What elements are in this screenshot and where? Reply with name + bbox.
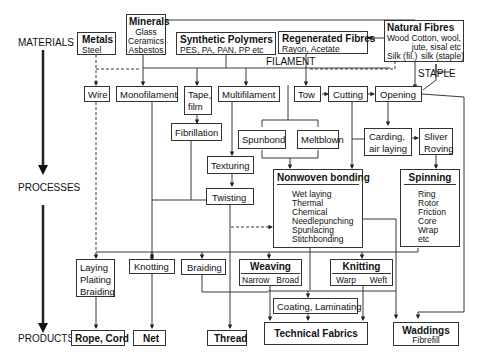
textile-process-diagram: MATERIALS PROCESSES PRODUCTS Metals Stee… [0, 0, 480, 360]
laying-label: Laying [80, 262, 108, 273]
knotting-label: Knotting [134, 261, 169, 272]
multifilament-box: Multifilament [218, 86, 280, 102]
spinning-title: Spinning [401, 172, 459, 183]
meltblown-label: Meltblown [301, 134, 344, 145]
synthetic-title: Synthetic Polymers [180, 34, 273, 45]
synthetic-item: PES, PA, PAN, PP etc [180, 45, 264, 56]
filament-label: FILAMENT [266, 56, 315, 67]
weaving-narrow: Narrow [242, 275, 269, 286]
carding-box: Carding, air laying [364, 128, 412, 156]
thread-label: Thread [214, 333, 247, 344]
weaving-box: Weaving Narrow Broad [239, 259, 302, 286]
minerals-box: Minerals Glass Ceramics Asbestos [126, 14, 166, 55]
nonwoven-title: Nonwoven bonding [277, 172, 370, 183]
braiding-label: Braiding [80, 286, 115, 297]
nonwoven-item: Stitchbonding [292, 234, 344, 245]
carding-label: Carding, [369, 131, 405, 142]
metals-box: Metals Steel [77, 32, 116, 55]
sliver-label: Sliver [424, 131, 448, 142]
braiding-box: Braiding [181, 259, 226, 275]
plaiting-label: Plaiting [80, 274, 111, 285]
metals-title: Metals [82, 34, 113, 45]
spunbond-label: Spunbond [242, 134, 285, 145]
thread-box: Thread [207, 330, 247, 346]
knitting-divider [332, 273, 391, 274]
natural-item-silk-staple: silk (staple) [421, 51, 464, 62]
spinning-divider [404, 184, 456, 185]
tow-label: Tow [298, 89, 315, 100]
weaving-divider [241, 273, 300, 274]
knitting-title: Knitting [331, 261, 392, 272]
weaving-broad: Broad [276, 275, 299, 286]
spunbond-box: Spunbond [238, 130, 286, 149]
air-laying-label: air laying [369, 143, 407, 154]
natural-title: Natural Fibres [387, 22, 454, 33]
braiding-label: Braiding [187, 262, 222, 273]
spinning-item: etc [418, 234, 429, 245]
rope-cord-box: Rope, Cord [71, 330, 125, 346]
nonwoven-divider [277, 184, 359, 185]
twisting-box: Twisting [206, 188, 254, 205]
net-label: Net [143, 333, 159, 344]
monofilament-box: Monofilament [116, 86, 178, 102]
laying-plaiting-braiding-box: Laying Plaiting Braiding [76, 259, 115, 297]
weaving-title: Weaving [240, 261, 301, 272]
natural-fibres-box: Natural Fibres Wood Cotton, wool, jute, … [384, 20, 464, 62]
fibrillation-box: Fibrillation [171, 123, 222, 141]
monofilament-label: Monofilament [120, 89, 177, 100]
wire-label: Wire [88, 89, 108, 100]
roving-label: Roving [424, 143, 454, 154]
texturing-box: Texturing [207, 156, 254, 174]
cutting-box: Cutting [328, 86, 368, 102]
knotting-box: Knotting [129, 259, 175, 274]
technical-fabrics-box: Technical Fabrics [264, 322, 368, 345]
natural-item-wood: Wood [387, 33, 409, 44]
cutting-label: Cutting [333, 89, 363, 100]
fibrillation-label: Fibrillation [175, 127, 218, 138]
staple-label: STAPLE [418, 68, 456, 79]
rope-cord-label: Rope, Cord [75, 333, 129, 344]
regenerated-item: Rayon, Acetate [282, 44, 340, 55]
stage-label-products: PRODUCTS [18, 333, 74, 344]
minerals-item-asbestos: Asbestos [127, 45, 165, 56]
opening-label: Opening [380, 89, 416, 100]
coating-label: Coating, Laminating [277, 301, 362, 312]
sliver-roving-box: Sliver Roving [419, 128, 453, 155]
regenerated-fibres-box: Regenerated Fibres Rayon, Acetate [278, 31, 368, 54]
knitting-weft: Weft [370, 275, 387, 286]
fibrefill-label: Fibrefill [394, 335, 458, 346]
texturing-label: Texturing [211, 160, 250, 171]
nonwoven-bonding-box: Nonwoven bonding Wet laying Thermal Chem… [273, 169, 363, 248]
knitting-warp: Warp [336, 275, 356, 286]
meltblown-box: Meltblown [297, 130, 339, 149]
twisting-label: Twisting [212, 192, 246, 203]
synthetic-polymers-box: Synthetic Polymers PES, PA, PAN, PP etc [176, 32, 276, 55]
multifilament-label: Multifilament [222, 89, 275, 100]
film-label: film [188, 101, 203, 112]
stage-label-materials: MATERIALS [18, 37, 74, 48]
minerals-title: Minerals [129, 16, 170, 27]
regenerated-title: Regenerated Fibres [282, 33, 375, 44]
knitting-box: Knitting Warp Weft [330, 259, 393, 286]
stage-label-processes: PROCESSES [18, 182, 80, 193]
spinning-box: Spinning Ring Rotor Friction Core Wrap e… [400, 169, 460, 247]
metals-item: Steel [82, 45, 101, 56]
tape-label: Tape, [188, 89, 211, 100]
technical-fabrics-label: Technical Fabrics [265, 328, 367, 339]
wire-box: Wire [84, 86, 110, 102]
opening-box: Opening [375, 86, 422, 102]
net-box: Net [133, 330, 166, 346]
coating-laminating-box: Coating, Laminating [273, 298, 358, 314]
tape-film-box: Tape, film [184, 86, 212, 115]
waddings-box: Waddings Fibrefill [393, 322, 459, 346]
natural-item-silk-fil: Silk (fil.) [387, 51, 417, 62]
tow-box: Tow [294, 86, 321, 102]
